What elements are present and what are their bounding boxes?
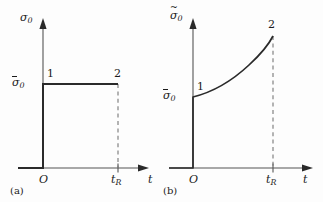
panel-label-a: (a) [10, 186, 24, 196]
x-axis-label-b: t [303, 174, 307, 185]
y-axis-label-b: σ0 [170, 10, 183, 23]
origin-label-a: O [39, 174, 48, 185]
panel-a: σ0 σ0 1 2 O tR t (a) [0, 0, 162, 202]
tick-label-tr-a: tR [111, 174, 121, 187]
stress-curve-b [169, 36, 273, 168]
y-axis-label-a-glyph: σ [20, 12, 28, 23]
panel-label-b: (b) [163, 186, 177, 196]
point-label-b-1: 1 [197, 81, 204, 92]
origin-label-b: O [189, 174, 198, 185]
y-axis-label-b-glyph: σ [170, 10, 178, 21]
y-axis-label-a: σ0 [20, 12, 33, 25]
level-label-a: σ0 [12, 77, 25, 90]
point-label-b-2: 2 [268, 19, 275, 30]
level-label-a-glyph: σ [12, 77, 20, 88]
level-label-b: σ0 [163, 90, 176, 103]
x-axis-label-a: t [148, 174, 152, 185]
panel-b-plot [161, 0, 323, 202]
point-label-a-2: 2 [114, 68, 121, 79]
panel-b: σ0 σ0 1 2 O tR t (b) [161, 0, 323, 202]
stress-curve-a [18, 84, 118, 168]
level-label-b-glyph: σ [163, 90, 171, 101]
panel-a-plot [0, 0, 162, 202]
figure-root: σ0 σ0 1 2 O tR t (a) [0, 0, 323, 202]
point-label-a-1: 1 [47, 68, 54, 79]
tick-label-tr-b: tR [266, 174, 276, 187]
